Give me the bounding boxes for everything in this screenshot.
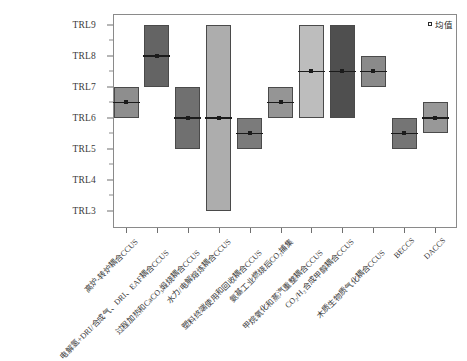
x-axis-label: BECCS — [392, 236, 416, 260]
x-axis-label: DACCS — [422, 236, 447, 261]
